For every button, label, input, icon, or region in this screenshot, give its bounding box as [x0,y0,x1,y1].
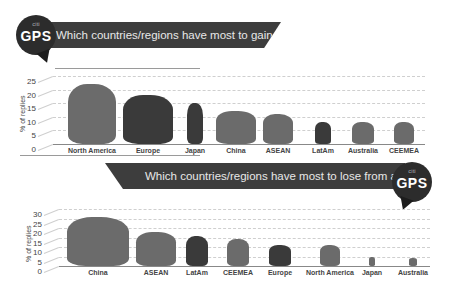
gridline-connector [44,238,59,245]
map-bar-europe [269,245,291,266]
gridline-connector [44,247,59,254]
lose-chart-panel: Which countries/regions have most to los… [0,0,450,295]
y-tick: 0 [28,267,42,276]
map-bar-australia [409,258,417,266]
map-bar-china [67,217,129,266]
y-tick: 20 [28,229,42,238]
gridline [59,209,430,210]
map-bar-asean [136,232,176,266]
gridline-connector [44,228,59,235]
gridline-connector [44,257,59,264]
category-label: China [68,269,128,276]
y-tick: 10 [28,248,42,257]
lose-chart-title: Which countries/regions have most to los… [105,163,405,189]
map-bar-ceemea [227,239,249,266]
gps-label-2: GPS [392,175,432,191]
y-tick: 25 [28,220,42,229]
gridline-connector [44,219,59,226]
map-bar-north-america [320,245,340,266]
gridline-connector [44,209,59,216]
gridline-connector [44,266,59,273]
y-tick: 30 [28,210,42,219]
x-axis-baseline [59,266,430,267]
map-bar-japan [369,257,375,267]
y-tick: 15 [28,239,42,248]
citi-label-2: citi [392,168,432,174]
map-bar-latam [186,236,208,266]
y-tick: 5 [28,258,42,267]
bottom-rule [20,155,200,156]
category-label: Australia [383,269,443,276]
citi-gps-logo-2: citi GPS [392,162,432,202]
